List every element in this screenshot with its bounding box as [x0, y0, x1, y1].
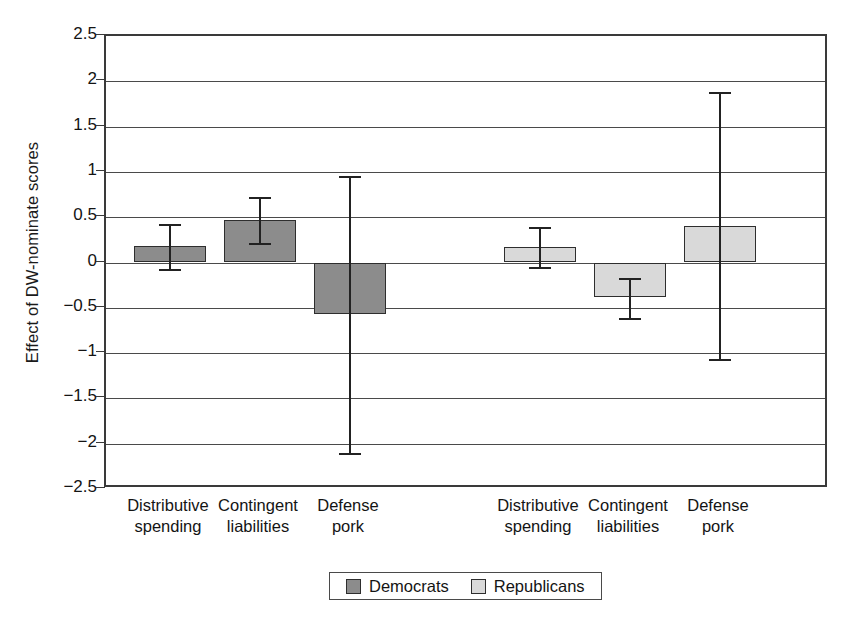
legend-entry-democrats: Democrats [346, 577, 449, 596]
error-bar-cap-top [619, 278, 641, 280]
y-axis-tick-label: 2 [31, 69, 97, 89]
error-bar-cap-bottom [249, 243, 271, 245]
y-axis-tick-label: −1 [31, 341, 97, 361]
y-axis-tick-label: 0.5 [31, 205, 97, 225]
error-bar [336, 176, 364, 452]
legend-entry-republicans: Republicans [471, 577, 585, 596]
x-axis-tick-label-line2: pork [278, 516, 418, 537]
error-bar-cap-bottom [339, 453, 361, 455]
x-axis-tick-label-line2: pork [648, 516, 788, 537]
gridline [106, 444, 825, 445]
legend-swatch-icon [471, 579, 486, 594]
legend-label: Republicans [494, 577, 585, 596]
x-axis-tick-label-line1: Defense [687, 496, 748, 514]
error-bar [526, 227, 554, 267]
error-bar-line [169, 224, 171, 268]
error-bar-line [349, 176, 351, 452]
error-bar [706, 92, 734, 358]
plot-area [104, 34, 827, 487]
error-bar-cap-bottom [529, 267, 551, 269]
error-bar-line [259, 197, 261, 243]
error-bar-line [719, 92, 721, 358]
error-bar-cap-bottom [709, 359, 731, 361]
x-axis-tick-label: Defensepork [648, 495, 788, 537]
error-bar-line [629, 278, 631, 318]
gridline [106, 81, 825, 82]
error-bar-cap-top [339, 176, 361, 178]
error-bar-cap-top [529, 227, 551, 229]
error-bar [246, 197, 274, 243]
y-axis-tick-label: −0.5 [31, 296, 97, 316]
error-bar-cap-bottom [619, 318, 641, 320]
y-axis-tick-mark [96, 487, 105, 488]
y-axis-tick-label: −1.5 [31, 386, 97, 406]
x-axis-tick-label: Defensepork [278, 495, 418, 537]
chart-figure: Effect of DW-nominate scores 2.521.510.5… [0, 0, 855, 629]
error-bar [616, 278, 644, 318]
y-axis-tick-label: 1.5 [31, 115, 97, 135]
error-bar-cap-top [249, 197, 271, 199]
error-bar-cap-bottom [159, 269, 181, 271]
y-axis-tick-label: −2 [31, 432, 97, 452]
y-axis-tick-label: 0 [31, 251, 97, 271]
y-axis-tick-label: −2.5 [31, 477, 97, 497]
error-bar-cap-top [709, 92, 731, 94]
legend-label: Democrats [369, 577, 449, 596]
legend-swatch-icon [346, 579, 361, 594]
error-bar-line [539, 227, 541, 267]
x-axis-tick-label-line1: Defense [317, 496, 378, 514]
chart-legend: DemocratsRepublicans [329, 572, 602, 600]
gridline [106, 398, 825, 399]
y-axis-tick-label: 2.5 [31, 24, 97, 44]
y-axis-tick-label: 1 [31, 160, 97, 180]
error-bar-cap-top [159, 224, 181, 226]
error-bar [156, 224, 184, 268]
